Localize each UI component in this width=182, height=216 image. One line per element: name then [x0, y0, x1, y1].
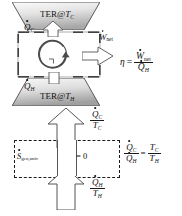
qh-heat-label-top: QH: [24, 82, 35, 92]
sgen-subscript: gen,univ: [21, 156, 38, 161]
carnot-rhs-numerator: TC: [148, 143, 161, 153]
carnot-lhs-denominator: QH: [124, 153, 139, 164]
efficiency-eta-symbol: η: [120, 58, 125, 68]
qh-arrow-up: [47, 72, 61, 84]
carnot-lhs-num-symbol: Q: [126, 142, 133, 152]
qh-symbol-top: Q: [24, 81, 31, 91]
carnot-lhs-den-symbol: Q: [126, 153, 133, 163]
efficiency-den-symbol: Q: [138, 62, 145, 72]
efficiency-equals: =: [127, 58, 132, 68]
carnot-lhs-numerator: QC: [124, 143, 139, 153]
hot-reservoir-label-subscript: H: [70, 96, 74, 102]
sgen-zero: 0: [83, 151, 87, 161]
sgen-equals: =: [76, 151, 81, 161]
efficiency-numerator: Wnet: [134, 52, 153, 62]
hot-reservoir-label-prefix: TER@: [40, 91, 65, 101]
entropy-in-top-fraction: QC TC: [90, 110, 104, 132]
entropy-flow-channel: [57, 140, 77, 176]
efficiency-den-subscript: H: [145, 67, 149, 73]
carnot-relation-equation: QC QH = TC TH: [124, 143, 161, 165]
carnot-lhs-den-subscript: H: [133, 158, 137, 164]
wnet-subscript: net: [107, 36, 113, 42]
efficiency-equation: η = Wnet QH: [120, 52, 153, 73]
entropy-bottom-denominator: TH: [90, 188, 105, 199]
carnot-rhs-fraction: TC TH: [148, 143, 161, 165]
entropy-top-num-subscript: C: [99, 114, 103, 120]
carnot-rhs-denominator: TH: [148, 153, 161, 164]
entropy-top-denominator: TC: [90, 120, 104, 131]
carnot-rhs-den-subscript: H: [155, 158, 159, 164]
efficiency-num-subscript: net: [144, 56, 151, 62]
carnot-equals: =: [141, 149, 146, 158]
sgen-symbol: S: [17, 151, 21, 161]
figure-canvas: TER@TC QC QH TER@TH: [0, 0, 182, 216]
efficiency-fraction: Wnet QH: [134, 52, 153, 73]
entropy-top-den-subscript: C: [98, 125, 102, 131]
carnot-lhs-fraction: QC QH: [124, 143, 139, 165]
cold-reservoir-label: TER@TC: [40, 10, 74, 20]
wnet-symbol: W: [99, 32, 107, 42]
entropy-in-bottom-fraction: QH TH: [90, 178, 105, 200]
entropy-generation-value: = 0: [76, 152, 87, 161]
qh-subscript-top: H: [31, 86, 35, 92]
entropy-bottom-num-symbol: Q: [92, 177, 99, 187]
qc-arrow-up: [42, 21, 64, 37]
hot-reservoir-label: TER@TH: [40, 92, 74, 102]
cold-reservoir-label-subscript: C: [70, 14, 74, 20]
entropy-bottom-num-subscript: H: [99, 182, 103, 188]
entropy-bottom-numerator: QH: [90, 178, 105, 188]
entropy-top-num-symbol: Q: [92, 109, 99, 119]
efficiency-denominator: QH: [134, 62, 153, 73]
entropy-generation-label: Sgen,univ: [17, 152, 38, 162]
entropy-top-numerator: QC: [90, 110, 104, 120]
wnet-label: Wnet: [99, 33, 113, 43]
entropy-bottom-den-subscript: H: [98, 193, 102, 199]
efficiency-num-symbol: W: [136, 51, 144, 61]
carnot-rhs-num-subscript: C: [155, 147, 159, 153]
carnot-lhs-num-subscript: C: [133, 147, 137, 153]
wnet-arrow-right: [82, 46, 114, 66]
cold-reservoir-label-prefix: TER@: [40, 9, 65, 19]
